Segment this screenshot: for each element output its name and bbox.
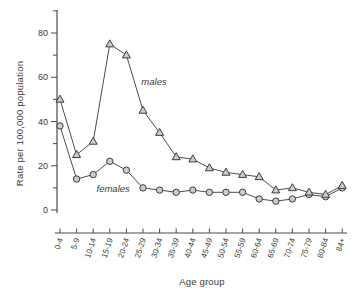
x-tick-label: 80-84	[316, 236, 331, 259]
y-tick-label: 60	[38, 72, 48, 82]
females-marker	[57, 123, 63, 129]
females-marker	[190, 187, 196, 193]
x-tick-label: 25-29	[133, 236, 148, 259]
plot-svg: 0204060800-45-910-1415-1920-2425-2930-34…	[0, 0, 360, 299]
females-marker	[140, 185, 146, 191]
x-tick-label: 10-14	[83, 236, 98, 259]
females-series-label: females	[97, 183, 130, 194]
males-marker	[338, 181, 346, 188]
x-tick-label: 20-24	[116, 236, 131, 259]
x-tick-label: 30-34	[150, 236, 165, 259]
chart: 0204060800-45-910-1415-1920-2425-2930-34…	[0, 0, 360, 299]
females-marker	[73, 176, 79, 182]
x-tick-label: 45-49	[199, 236, 214, 259]
x-tick-label: 15-19	[100, 236, 115, 259]
males-marker	[288, 184, 296, 191]
x-tick-label: 5-9	[69, 236, 81, 250]
females-marker	[273, 198, 279, 204]
x-tick-label: 0-4	[53, 236, 65, 250]
females-marker	[107, 158, 113, 164]
x-tick-label: 84+	[334, 237, 347, 253]
males-marker	[205, 164, 213, 171]
females-marker	[123, 167, 129, 173]
x-tick-label: 75-79	[299, 236, 314, 259]
males-marker	[139, 106, 147, 113]
males-marker	[73, 150, 81, 157]
y-tick-label: 80	[38, 28, 48, 38]
males-marker	[172, 153, 180, 160]
males-marker	[106, 40, 114, 47]
males-line	[60, 44, 342, 194]
x-tick-label: 40-44	[183, 236, 198, 259]
x-tick-label: 50-54	[216, 236, 231, 259]
y-tick-label: 40	[38, 117, 48, 127]
males-series-label: males	[141, 76, 166, 87]
females-marker	[256, 196, 262, 202]
x-tick-label: 65-69	[266, 236, 281, 259]
females-marker	[206, 189, 212, 195]
males-marker	[89, 137, 97, 144]
x-tick-label: 55-59	[233, 236, 248, 259]
males-marker	[122, 51, 130, 58]
females-marker	[223, 189, 229, 195]
x-tick-label: 70-74	[282, 236, 297, 259]
x-tick-label: 35-39	[166, 236, 181, 259]
y-tick-label: 0	[43, 205, 48, 215]
females-marker	[239, 189, 245, 195]
y-tick-label: 20	[38, 161, 48, 171]
x-tick-label: 60-64	[249, 236, 264, 259]
x-axis-title: Age group	[122, 276, 282, 287]
y-axis-title: Rate per 100,000 population	[14, 44, 25, 204]
females-marker	[173, 189, 179, 195]
females-marker	[156, 187, 162, 193]
females-marker	[90, 171, 96, 177]
females-marker	[289, 196, 295, 202]
